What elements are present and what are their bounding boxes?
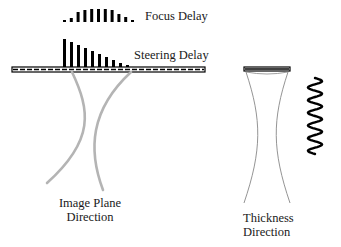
delay-bar: [98, 54, 101, 67]
delay-bar: [112, 60, 115, 67]
delay-bar: [84, 48, 87, 67]
steering-delay-bars: [63, 39, 129, 67]
delay-bar: [124, 17, 127, 22]
transducer-array: [12, 67, 205, 72]
image-plane-direction-label: Image Plane Direction: [40, 196, 140, 224]
delay-bar: [104, 9, 107, 22]
delay-bar: [91, 51, 94, 67]
delay-bar: [117, 14, 120, 22]
thickness-label-line1: Thickness: [243, 211, 294, 225]
thickness-direction-label: Thickness Direction: [243, 211, 294, 239]
focus-delay-bars: [63, 9, 134, 22]
delay-bar: [83, 10, 86, 22]
wave-icon: [308, 78, 322, 154]
delay-bar: [77, 12, 80, 22]
thickness-beam: [244, 72, 290, 203]
delay-bar: [70, 18, 73, 22]
thickness-label-line2: Direction: [243, 225, 294, 239]
delay-bar: [70, 42, 73, 67]
image-plane-beam: [47, 72, 131, 190]
image-plane-label-line1: Image Plane: [40, 196, 140, 210]
image-plane-label-line2: Direction: [40, 210, 140, 224]
delay-bar: [63, 20, 66, 22]
delay-bar: [90, 9, 93, 22]
delay-bar: [77, 45, 80, 67]
delay-bar: [105, 57, 108, 67]
delay-bar: [97, 9, 100, 22]
delay-bar: [63, 39, 66, 67]
delay-bar: [131, 20, 134, 22]
thickness-transducer: [244, 67, 290, 74]
steering-delay-label: Steering Delay: [134, 48, 209, 62]
delay-bar: [111, 10, 114, 22]
focus-delay-label: Focus Delay: [145, 9, 208, 23]
